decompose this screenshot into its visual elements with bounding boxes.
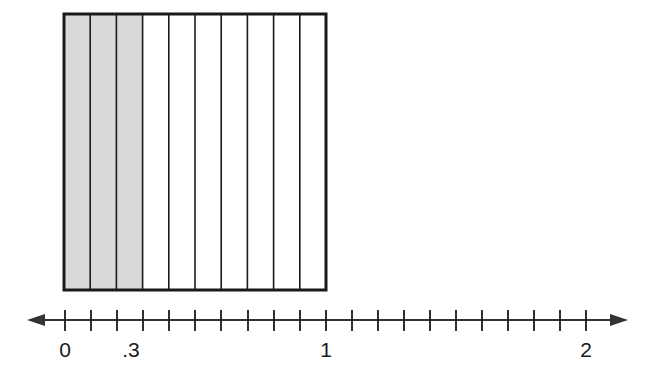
- figure-canvas: 0 .3 1 2: [0, 0, 660, 385]
- area-model-square: [64, 14, 326, 290]
- strip-9-unshaded: [274, 14, 300, 290]
- strip-1-shaded: [64, 14, 90, 290]
- strip-5-unshaded: [169, 14, 195, 290]
- decimal-model-figure: 0 .3 1 2: [0, 0, 660, 385]
- shaded-strips-group: [64, 14, 143, 290]
- number-line-ticks: [65, 310, 586, 331]
- label-one: 1: [320, 338, 332, 361]
- strip-10-unshaded: [300, 14, 326, 290]
- strip-3-shaded: [116, 14, 142, 290]
- strip-7-unshaded: [221, 14, 247, 290]
- number-line: 0 .3 1 2: [27, 310, 628, 361]
- right-arrowhead-icon: [610, 314, 628, 326]
- left-arrowhead-icon: [27, 314, 45, 326]
- strip-6-unshaded: [195, 14, 221, 290]
- label-two: 2: [580, 338, 592, 361]
- label-point-three: .3: [122, 338, 140, 361]
- strip-4-unshaded: [143, 14, 169, 290]
- number-line-labels: 0 .3 1 2: [59, 338, 592, 361]
- label-zero: 0: [59, 338, 71, 361]
- unshaded-strips-group: [143, 14, 326, 290]
- strip-2-shaded: [90, 14, 116, 290]
- strip-8-unshaded: [247, 14, 273, 290]
